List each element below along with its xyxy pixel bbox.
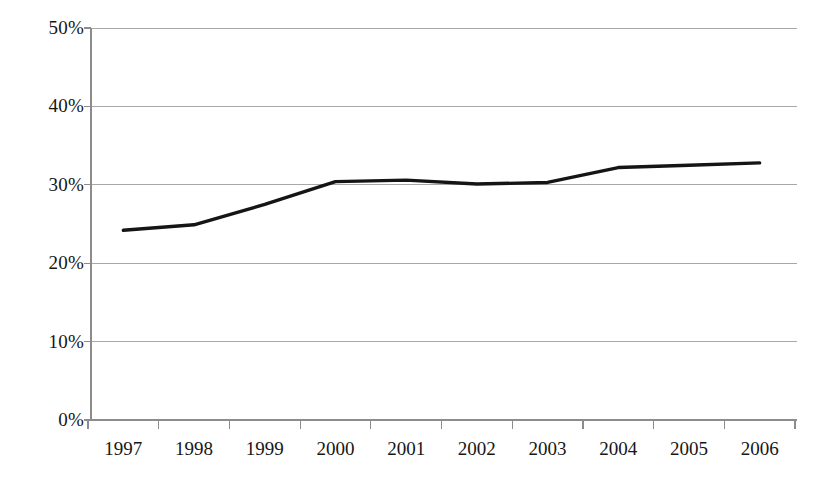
x-axis-tick-label: 1998 — [154, 438, 234, 460]
x-axis: 1997199819992000200120022003200420052006 — [0, 0, 819, 492]
line-chart: 50%40%30%20%10%0% 1997199819992000200120… — [0, 0, 819, 492]
x-axis-tick-label: 2004 — [578, 438, 658, 460]
x-axis-tick-label: 2003 — [508, 438, 588, 460]
x-axis-tick-label: 2001 — [366, 438, 446, 460]
x-axis-tick-label: 2005 — [649, 438, 729, 460]
x-axis-tick-label: 2006 — [720, 438, 800, 460]
x-axis-tick-label: 2000 — [295, 438, 375, 460]
x-axis-tick-label: 1999 — [225, 438, 305, 460]
x-axis-tick-label: 2002 — [437, 438, 517, 460]
x-axis-tick-label: 1997 — [83, 438, 163, 460]
